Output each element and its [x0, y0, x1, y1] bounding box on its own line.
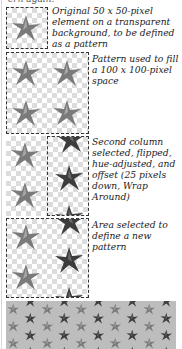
starfish-icon — [11, 262, 41, 292]
starfish-icon — [11, 13, 41, 43]
step-3-caption: Second column selected, flipped, hue-adj… — [92, 136, 180, 202]
starfish-icon — [54, 285, 84, 298]
starfish-icon — [54, 245, 84, 275]
starfish-icon — [52, 58, 82, 88]
step-2-caption: Pattern used to fill a 100 x 100-pixel s… — [92, 53, 180, 86]
starfish-icon — [11, 98, 41, 128]
starfish-icon — [10, 140, 40, 170]
final-tiled-pattern — [6, 301, 176, 349]
starfish-icon — [52, 98, 82, 128]
starfish-icon — [56, 136, 86, 155]
starfish-icon — [55, 218, 85, 237]
original-element-box — [6, 7, 48, 49]
starfish-icon — [54, 163, 84, 193]
step-1-caption: Original 50 x 50-pixel element on a tran… — [52, 5, 180, 49]
page-margin-line — [1, 0, 2, 349]
starfish-icon — [10, 180, 40, 210]
left-column — [6, 136, 47, 216]
selected-second-column — [47, 136, 89, 216]
starfish-icon — [54, 203, 84, 216]
cut-off-text: ern again. — [8, 0, 54, 4]
starfish-icon — [11, 58, 41, 88]
starfish-icon — [11, 222, 41, 252]
step-4-caption: Area selected to define a new pattern — [92, 219, 180, 252]
tiled-starfish-pattern — [6, 301, 176, 349]
filled-pattern-box — [6, 52, 89, 134]
new-pattern-selection — [6, 218, 89, 298]
